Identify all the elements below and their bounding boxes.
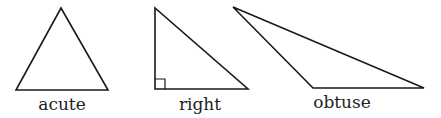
acute-triangle-group: acute — [16, 8, 108, 114]
acute-label: acute — [38, 94, 86, 114]
right-triangle-group: right — [155, 8, 248, 114]
obtuse-triangle — [233, 7, 424, 88]
obtuse-label: obtuse — [313, 92, 371, 112]
right-label: right — [179, 94, 221, 114]
right-triangle — [155, 8, 248, 89]
triangle-types-diagram: acute right obtuse — [0, 0, 441, 118]
acute-triangle — [16, 8, 108, 90]
obtuse-triangle-group: obtuse — [233, 7, 424, 112]
right-angle-mark-icon — [155, 79, 165, 89]
